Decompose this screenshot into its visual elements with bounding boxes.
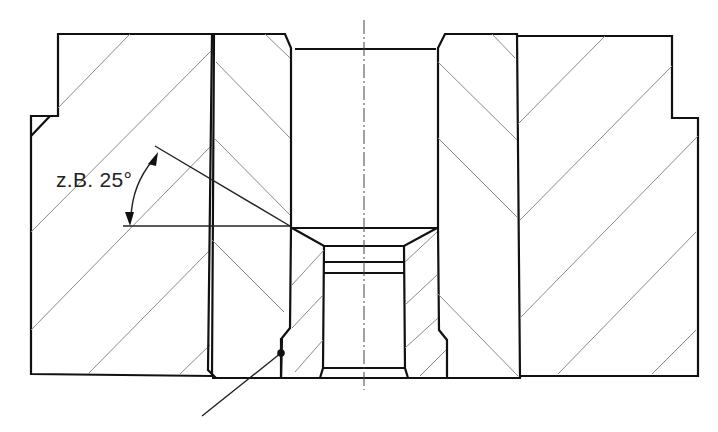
right-sleeve-hatching [438, 34, 518, 376]
angle-annotation-label: z.B. 25° [56, 168, 132, 192]
angle-dimension [123, 146, 290, 226]
left-body-section [31, 34, 214, 376]
arrowhead-down-icon [125, 212, 134, 226]
inner-bore [212, 228, 520, 378]
inner-bore-hatching [292, 232, 446, 376]
left-sleeve-section [208, 34, 291, 378]
left-sleeve-hatching [212, 34, 290, 312]
right-sleeve-section [438, 34, 520, 378]
cross-section-drawing [0, 0, 718, 432]
right-body-section [517, 36, 698, 376]
arrowhead-up-icon [148, 152, 158, 166]
